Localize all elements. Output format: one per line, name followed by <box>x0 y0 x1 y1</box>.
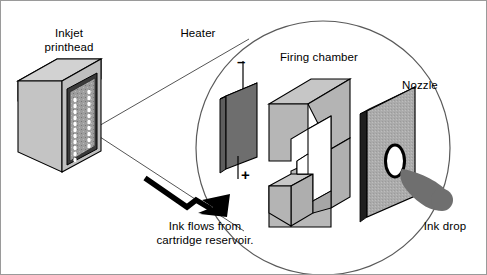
ink-drop-icon <box>400 169 453 211</box>
inkjet-printhead-body <box>18 59 101 172</box>
inkjet-printhead-diagram: Inkjetprinthead Heater Firing chamber No… <box>0 0 487 275</box>
nozzle-plate <box>360 87 415 222</box>
heater-positive-terminal: + <box>241 167 250 182</box>
heater-negative-terminal: – <box>237 54 245 69</box>
diagram-canvas <box>1 1 487 275</box>
firing-chamber-block <box>269 79 350 227</box>
ink-flow-arrow-icon <box>145 178 230 217</box>
heater-plate <box>220 61 257 179</box>
